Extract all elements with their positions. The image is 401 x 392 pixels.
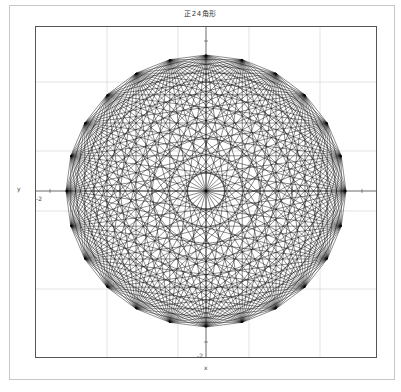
polygon-diagonals [66,55,346,327]
x-axis-label: x [204,364,208,371]
plot-area [0,0,401,392]
x-tick-label: -2 [197,352,203,359]
y-tick-label: -2 [36,195,42,202]
y-axis-label: y [17,185,21,192]
